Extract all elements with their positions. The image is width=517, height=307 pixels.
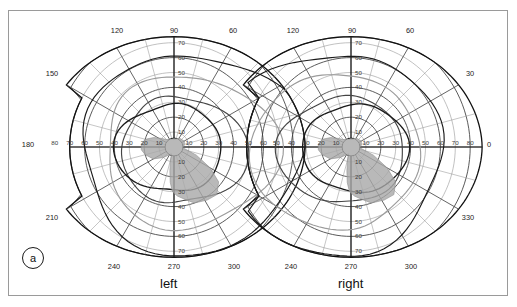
svg-text:60: 60: [260, 139, 267, 146]
svg-text:50: 50: [96, 139, 103, 146]
svg-text:40: 40: [178, 203, 185, 210]
svg-text:270: 270: [168, 262, 180, 271]
svg-text:30: 30: [392, 139, 399, 146]
svg-text:20: 20: [318, 139, 325, 146]
svg-text:50: 50: [178, 69, 185, 76]
svg-text:40: 40: [407, 139, 414, 146]
perimetry-plot-area: 1209060240270300150180210706050403020101…: [0, 0, 517, 307]
svg-text:20: 20: [178, 173, 185, 180]
svg-text:10: 10: [333, 139, 340, 146]
panel-label: a: [22, 247, 44, 269]
svg-text:30: 30: [303, 139, 310, 146]
svg-text:10: 10: [355, 128, 362, 135]
svg-text:240: 240: [108, 262, 120, 271]
svg-text:40: 40: [288, 139, 295, 146]
svg-text:90: 90: [170, 26, 178, 35]
svg-text:40: 40: [230, 139, 237, 146]
svg-text:300: 300: [405, 262, 417, 271]
svg-text:40: 40: [178, 83, 185, 90]
visual-field-svg: 1209060240270300150180210706050403020101…: [0, 0, 517, 307]
perimetry-figure: 1209060240270300150180210706050403020101…: [0, 0, 517, 307]
svg-text:240: 240: [285, 262, 297, 271]
svg-text:60: 60: [437, 139, 444, 146]
right-eye-caption: right: [338, 276, 363, 291]
svg-text:20: 20: [377, 139, 384, 146]
svg-text:60: 60: [178, 232, 185, 239]
svg-text:330: 330: [462, 213, 474, 222]
svg-text:10: 10: [178, 158, 185, 165]
svg-text:20: 20: [178, 113, 185, 120]
svg-text:70: 70: [178, 39, 185, 46]
svg-text:210: 210: [46, 213, 58, 222]
svg-text:90: 90: [348, 26, 356, 35]
svg-text:60: 60: [81, 139, 88, 146]
svg-text:10: 10: [178, 128, 185, 135]
svg-text:270: 270: [345, 262, 357, 271]
svg-text:30: 30: [355, 98, 362, 105]
svg-text:30: 30: [215, 139, 222, 146]
svg-text:80: 80: [467, 139, 474, 146]
svg-text:60: 60: [406, 26, 414, 35]
svg-text:50: 50: [273, 139, 280, 146]
svg-text:80: 80: [51, 139, 58, 146]
svg-text:50: 50: [422, 139, 429, 146]
svg-text:30: 30: [126, 139, 133, 146]
svg-text:10: 10: [185, 139, 192, 146]
svg-text:30: 30: [355, 188, 362, 195]
svg-text:50: 50: [355, 69, 362, 76]
svg-text:20: 20: [200, 139, 207, 146]
svg-text:20: 20: [141, 139, 148, 146]
svg-text:20: 20: [355, 113, 362, 120]
svg-text:10: 10: [156, 139, 163, 146]
right-eye-polar-grid: [243, 37, 482, 258]
left-eye-caption: left: [160, 276, 177, 291]
svg-text:70: 70: [452, 139, 459, 146]
svg-text:70: 70: [178, 247, 185, 254]
svg-text:70: 70: [355, 247, 362, 254]
svg-text:10: 10: [355, 158, 362, 165]
svg-text:120: 120: [287, 26, 299, 35]
svg-text:30: 30: [178, 188, 185, 195]
svg-text:30: 30: [178, 98, 185, 105]
svg-text:0: 0: [487, 140, 491, 149]
svg-text:60: 60: [178, 54, 185, 61]
svg-text:50: 50: [178, 218, 185, 225]
svg-text:150: 150: [46, 69, 58, 78]
svg-text:50: 50: [245, 139, 252, 146]
svg-text:40: 40: [111, 139, 118, 146]
svg-text:30: 30: [466, 69, 474, 78]
svg-text:10: 10: [362, 139, 369, 146]
svg-text:50: 50: [355, 218, 362, 225]
svg-text:60: 60: [355, 54, 362, 61]
svg-text:180: 180: [22, 140, 34, 149]
svg-text:120: 120: [111, 26, 123, 35]
svg-text:70: 70: [355, 39, 362, 46]
svg-text:20: 20: [355, 173, 362, 180]
svg-text:70: 70: [66, 139, 73, 146]
svg-text:60: 60: [229, 26, 237, 35]
svg-text:40: 40: [355, 203, 362, 210]
svg-text:300: 300: [228, 262, 240, 271]
svg-text:40: 40: [355, 83, 362, 90]
svg-text:60: 60: [355, 232, 362, 239]
